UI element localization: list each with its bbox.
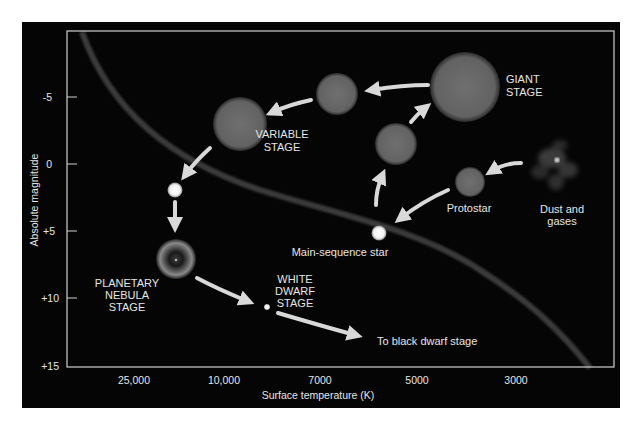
- arrow-upper-to-variable: [273, 100, 311, 112]
- arrow-white-dwarf-to-black-dwarf: [278, 313, 355, 335]
- variable-stage-label-2: STAGE: [264, 141, 300, 153]
- white-dwarf-icon: [264, 304, 270, 310]
- main-sequence-label: Main-sequence star: [292, 246, 389, 258]
- arrow-giant-to-upper: [372, 85, 428, 90]
- y-tick-plus15: +15: [41, 360, 59, 372]
- x-tick-3000: 3000: [504, 374, 528, 386]
- white-dwarf-label-2: DWARF: [275, 285, 315, 297]
- giant-star-icon: [430, 52, 500, 122]
- nebula-center-icon: [175, 259, 177, 261]
- y-tick-minus5: -5: [43, 91, 52, 103]
- planetary-nebula-label-2: NEBULA: [105, 289, 150, 301]
- x-tick-7000: 7000: [308, 374, 332, 386]
- main-sequence-star-icon: [372, 226, 387, 241]
- x-tick-10000: 10,000: [208, 374, 240, 386]
- arrow-nebula-to-white-dwarf: [197, 278, 247, 301]
- dust-gases-label-2: gases: [547, 215, 577, 227]
- arrow-protostar-to-main-sequence: [401, 190, 448, 218]
- arrow-main-sequence-to-expanding: [376, 176, 382, 205]
- variable-stage-label: VARIABLE: [256, 128, 309, 140]
- dust-cloud-icon: [531, 140, 578, 190]
- y-tick-0: 0: [46, 158, 52, 170]
- white-dwarf-label-3: STAGE: [277, 297, 313, 309]
- hot-core-star-icon: [168, 183, 183, 198]
- x-tick-5000: 5000: [405, 374, 429, 386]
- x-tick-25000: 25,000: [118, 374, 150, 386]
- expanding-star-upper-icon: [316, 73, 358, 115]
- arrow-expanding-to-giant: [411, 108, 425, 122]
- y-tick-plus5: +5: [43, 225, 55, 237]
- y-axis-ticks: [67, 97, 77, 298]
- expanding-star-lower-icon: [375, 123, 417, 165]
- giant-stage-label-2: STAGE: [506, 86, 542, 98]
- giant-stage-label: GIANT: [506, 73, 540, 85]
- planetary-nebula-label-3: STAGE: [109, 301, 145, 313]
- variable-star-icon: [213, 97, 267, 151]
- protostar-label: Protostar: [447, 202, 492, 214]
- x-axis-label: Surface temperature (K): [262, 389, 375, 401]
- white-dwarf-label: WHITE: [277, 273, 312, 285]
- dust-gases-label: Dust and: [540, 203, 584, 215]
- y-axis-label: Absolute magnitude: [28, 153, 40, 246]
- dust-core-icon: [555, 158, 560, 163]
- y-tick-plus10: +10: [41, 292, 59, 304]
- planetary-nebula-label: PLANETARY: [95, 277, 160, 289]
- black-dwarf-label: To black dwarf stage: [377, 335, 477, 347]
- stellar-evolution-diagram: -5 0 +5 +10 +15 Absolute magnitude 25,00…: [0, 0, 639, 427]
- arrow-dust-to-protostar: [492, 163, 521, 171]
- protostar-icon: [455, 167, 485, 197]
